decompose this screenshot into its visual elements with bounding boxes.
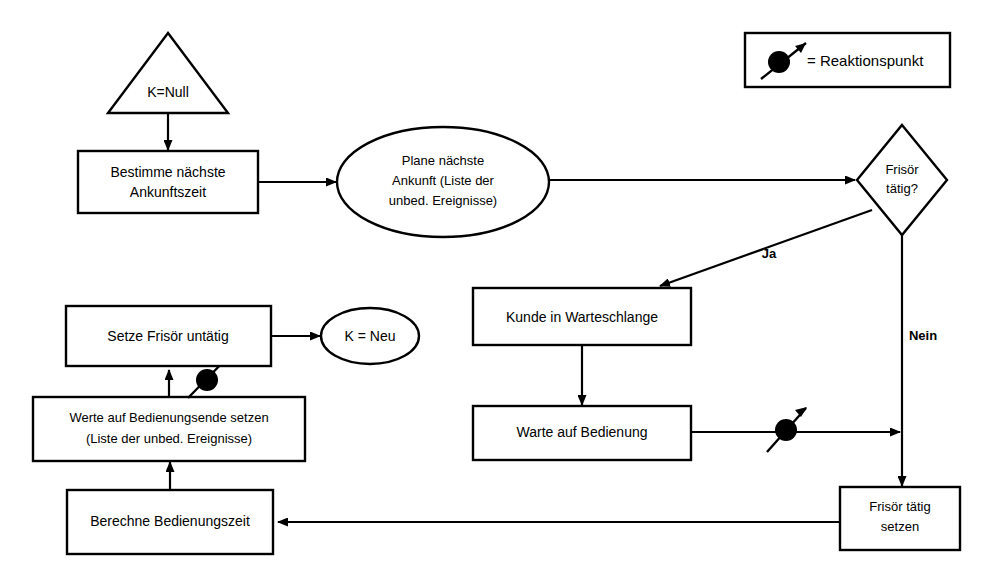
- legend-label: = Reaktionspunkt: [807, 52, 924, 69]
- flowchart-canvas: = Reaktionspunkt K=Null Bestimme nächste…: [0, 0, 992, 580]
- node-k-neu: K = Neu: [321, 308, 419, 364]
- k-neu-label: K = Neu: [345, 328, 396, 344]
- node-frisoer-taetig: Frisör tätig setzen: [840, 487, 960, 550]
- werte-line2: (Liste der unbed. Ereignisse): [86, 431, 252, 446]
- node-warte: Warte auf Bedienung: [473, 406, 691, 460]
- berechne-label: Berechne Bedienungszeit: [90, 513, 250, 529]
- node-setze-untaetig: Setze Frisör untätig: [66, 306, 271, 366]
- setze-untaetig-label: Setze Frisör untätig: [107, 328, 228, 344]
- decision-line2: tätig?: [886, 181, 918, 196]
- node-plane: Plane nächste Ankunft (Liste der unbed. …: [337, 127, 549, 237]
- legend-box: = Reaktionspunkt: [745, 33, 950, 87]
- node-werte: Werte auf Bedienungsende setzen (Liste d…: [33, 397, 305, 461]
- plane-line3: unbed. Ereignisse): [389, 193, 497, 208]
- werte-line1: Werte auf Bedienungsende setzen: [69, 410, 268, 425]
- flowchart-svg: = Reaktionspunkt K=Null Bestimme nächste…: [0, 0, 992, 580]
- plane-line2: Ankunft (Liste der: [392, 173, 495, 188]
- start-trigger-label: K=Null: [147, 84, 189, 100]
- frisoer-taetig-line1: Frisör tätig: [869, 499, 930, 514]
- node-kunde: Kunde in Warteschlange: [473, 288, 691, 345]
- plane-line1: Plane nächste: [402, 153, 484, 168]
- decision-line1: Frisör: [885, 162, 919, 177]
- node-decision: Frisör tätig?: [857, 125, 947, 235]
- bestimme-line2: Ankunftszeit: [130, 184, 206, 200]
- edge-label-ja: Ja: [762, 246, 777, 261]
- frisoer-taetig-line2: setzen: [881, 519, 919, 534]
- node-berechne: Berechne Bedienungszeit: [67, 490, 273, 554]
- reaktionspunkt-marker-warte-icon: [767, 407, 807, 452]
- edge-label-nein: Nein: [909, 328, 937, 343]
- bestimme-line1: Bestimme nächste: [110, 164, 225, 180]
- kunde-label: Kunde in Warteschlange: [506, 309, 658, 325]
- warte-label: Warte auf Bedienung: [516, 424, 647, 440]
- node-bestimme: Bestimme nächste Ankunftszeit: [78, 151, 258, 213]
- node-start-trigger: K=Null: [108, 33, 228, 113]
